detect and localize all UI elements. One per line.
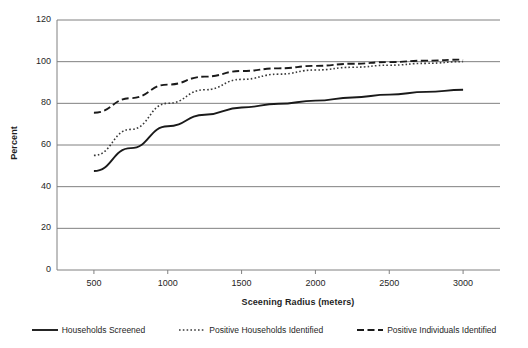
- dashed-line-swatch: [357, 325, 383, 335]
- y-tick-label: 40: [17, 181, 51, 191]
- legend-item: Positive Individuals Identified: [357, 325, 496, 335]
- y-tick-label: 60: [17, 139, 51, 149]
- line-chart: Percent Sceening Radius (meters) 0204060…: [0, 0, 528, 348]
- y-tick-label: 80: [17, 97, 51, 107]
- x-axis-title: Sceening Radius (meters): [96, 297, 500, 307]
- series-line-2: [94, 60, 463, 113]
- legend-label: Positive Individuals Identified: [387, 325, 496, 335]
- series-line-0: [94, 90, 463, 171]
- x-tick-label: 2500: [365, 278, 413, 288]
- y-tick-label: 100: [17, 56, 51, 66]
- x-tick-label: 1500: [218, 278, 266, 288]
- legend-item: Positive Households Identified: [179, 325, 323, 335]
- legend-label: Households Screened: [62, 325, 146, 335]
- x-tick-label: 500: [70, 278, 118, 288]
- x-tick-label: 3000: [439, 278, 487, 288]
- y-tick-label: 120: [17, 14, 51, 24]
- chart-legend: Households ScreenedPositive Households I…: [0, 320, 528, 340]
- gridlines: [57, 20, 500, 270]
- axis-lines: [57, 20, 463, 274]
- legend-label: Positive Households Identified: [209, 325, 323, 335]
- series-lines: [94, 60, 463, 171]
- dotted-line-swatch: [179, 325, 205, 335]
- x-tick-label: 1000: [144, 278, 192, 288]
- plot-area: [0, 0, 528, 348]
- solid-line-swatch: [32, 325, 58, 335]
- series-line-1: [94, 62, 463, 156]
- y-tick-label: 0: [17, 264, 51, 274]
- legend-item: Households Screened: [32, 325, 146, 335]
- y-tick-label: 20: [17, 222, 51, 232]
- x-tick-label: 2000: [291, 278, 339, 288]
